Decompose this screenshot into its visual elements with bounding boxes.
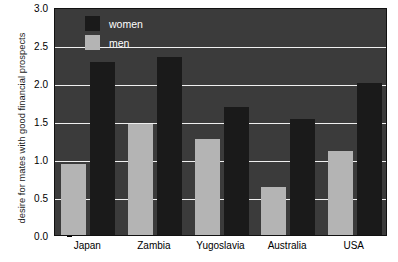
- bar-men-japan: [61, 164, 86, 235]
- y-axis-tick-mark: [67, 236, 72, 237]
- x-axis-tick-label-yugoslavia: Yugoslavia: [196, 240, 244, 251]
- legend-swatch-men-icon: [85, 35, 100, 50]
- y-axis-tick-label: 2.0: [18, 79, 48, 90]
- bar-women-zambia: [157, 57, 182, 235]
- bar-women-usa: [357, 83, 382, 235]
- chart-legend: women men: [85, 15, 143, 53]
- bar-men-australia: [261, 187, 286, 235]
- y-axis-tick-labels: 0.00.51.01.52.02.53.0: [18, 0, 48, 262]
- legend-item-women: women: [85, 15, 143, 32]
- legend-item-men: men: [85, 34, 143, 51]
- plot-area: women men: [54, 8, 387, 236]
- y-axis-tick-label: 1.0: [18, 155, 48, 166]
- bar-men-yugoslavia: [195, 139, 220, 235]
- x-axis-tick-label-usa: USA: [343, 240, 364, 251]
- x-axis-tick-label-australia: Australia: [268, 240, 307, 251]
- legend-swatch-women-icon: [85, 16, 100, 31]
- y-axis-tick-label: 1.5: [18, 117, 48, 128]
- bar-women-japan: [90, 62, 115, 235]
- bar-men-zambia: [128, 124, 153, 235]
- legend-label-women: women: [109, 18, 143, 30]
- bar-chart-figure: desire for mates with good financial pro…: [0, 0, 398, 262]
- x-axis-tick-label-zambia: Zambia: [137, 240, 170, 251]
- y-axis-tick-label: 2.5: [18, 41, 48, 52]
- legend-label-men: men: [109, 37, 129, 49]
- y-axis-tick-label: 0.5: [18, 193, 48, 204]
- y-axis-tick-label: 0.0: [18, 231, 48, 242]
- x-axis-tick-label-japan: Japan: [74, 240, 101, 251]
- bar-women-yugoslavia: [224, 107, 249, 235]
- bar-women-australia: [290, 119, 315, 235]
- bar-men-usa: [328, 151, 353, 235]
- y-axis-tick-label: 3.0: [18, 3, 48, 14]
- x-axis-tick-labels: JapanZambiaYugoslaviaAustraliaUSA: [54, 240, 387, 260]
